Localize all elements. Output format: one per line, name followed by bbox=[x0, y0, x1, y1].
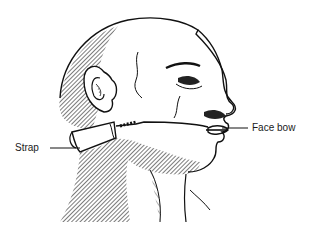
face-bow-label: Face bow bbox=[252, 123, 295, 133]
nose bbox=[204, 110, 226, 119]
face-bow-arm bbox=[116, 122, 208, 127]
eyebrow bbox=[166, 63, 200, 68]
eye bbox=[178, 76, 200, 85]
strap-label: Strap bbox=[15, 143, 39, 153]
diagram-canvas: Strap Face bow bbox=[0, 0, 319, 244]
